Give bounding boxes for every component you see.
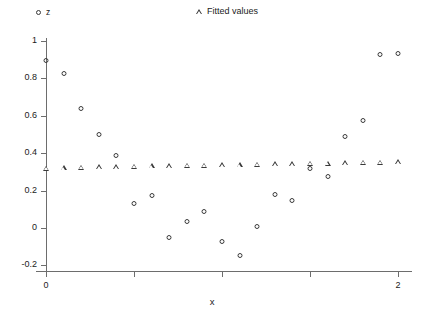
- data-point-fitted-values: [237, 152, 243, 170]
- x-tick-label: 2: [383, 281, 413, 290]
- circle-marker-icon: [396, 51, 401, 56]
- circle-marker-icon: [184, 219, 189, 224]
- data-point-fitted-values: [254, 152, 260, 170]
- triangle-marker-icon: [201, 163, 207, 168]
- data-point-fitted-values: [325, 151, 331, 169]
- circle-marker-icon: [237, 253, 242, 258]
- data-point-z: [220, 230, 225, 248]
- circle-marker-icon: [343, 134, 348, 139]
- triangle-marker-icon: [184, 163, 190, 168]
- data-point-z: [202, 200, 207, 218]
- data-point-z: [255, 215, 260, 233]
- data-point-fitted-values: [201, 153, 207, 171]
- triangle-marker-icon: [43, 166, 49, 171]
- triangle-marker-icon: [360, 160, 366, 165]
- data-point-z: [184, 210, 189, 228]
- triangle-marker-icon: [96, 164, 102, 169]
- triangle-marker-icon: [61, 165, 67, 170]
- circle-marker-icon: [272, 192, 277, 197]
- data-point-fitted-values: [377, 150, 383, 168]
- circle-marker-icon: [149, 193, 154, 198]
- x-tick-label: 0: [31, 281, 61, 290]
- data-point-z: [396, 42, 401, 60]
- circle-marker-icon: [61, 71, 66, 76]
- data-point-fitted-values: [149, 153, 155, 171]
- plot-area: 10.80.60.40.20-0.2 02: [0, 0, 424, 319]
- y-tick-label: 1: [0, 36, 37, 45]
- data-point-fitted-values: [289, 151, 295, 169]
- data-point-z: [149, 184, 154, 202]
- data-point-z: [132, 192, 137, 210]
- data-point-fitted-values: [43, 156, 49, 174]
- y-tick-label: 0.4: [0, 148, 37, 157]
- x-tick: [310, 272, 311, 277]
- triangle-marker-icon: [307, 161, 313, 166]
- data-point-z: [96, 123, 101, 141]
- data-point-z: [272, 183, 277, 201]
- data-point-fitted-values: [395, 149, 401, 167]
- x-axis-title: x: [0, 297, 424, 307]
- circle-marker-icon: [96, 132, 101, 137]
- triangle-marker-icon: [289, 161, 295, 166]
- triangle-marker-icon: [272, 161, 278, 166]
- triangle-marker-icon: [219, 162, 225, 167]
- circle-marker-icon: [325, 174, 330, 179]
- y-tick: [41, 191, 47, 192]
- triangle-marker-icon: [395, 159, 401, 164]
- data-point-fitted-values: [166, 153, 172, 171]
- data-point-z: [79, 97, 84, 115]
- data-point-fitted-values: [307, 151, 313, 169]
- circle-marker-icon: [360, 118, 365, 123]
- circle-marker-icon: [79, 106, 84, 111]
- data-point-z: [237, 244, 242, 262]
- chart-page: z Fitted values 10.80.60.40.20-0.2 02 x: [0, 0, 424, 319]
- triangle-marker-icon: [78, 165, 84, 170]
- circle-marker-icon: [167, 235, 172, 240]
- data-point-fitted-values: [219, 152, 225, 170]
- x-tick: [222, 272, 223, 277]
- circle-marker-icon: [132, 201, 137, 206]
- data-point-fitted-values: [96, 154, 102, 172]
- data-point-fitted-values: [113, 154, 119, 172]
- data-point-fitted-values: [61, 155, 67, 173]
- data-point-z: [290, 189, 295, 207]
- y-tick: [41, 78, 47, 79]
- y-tick-label: 0.6: [0, 111, 37, 120]
- triangle-marker-icon: [254, 162, 260, 167]
- triangle-marker-icon: [131, 164, 137, 169]
- y-tick-label: 0.8: [0, 73, 37, 82]
- data-point-fitted-values: [131, 154, 137, 172]
- y-tick-label: 0: [0, 223, 37, 232]
- circle-marker-icon: [290, 198, 295, 203]
- y-tick: [41, 116, 47, 117]
- y-tick: [41, 153, 47, 154]
- circle-marker-icon: [202, 209, 207, 214]
- y-tick-label: 0.2: [0, 186, 37, 195]
- data-point-fitted-values: [184, 153, 190, 171]
- data-point-z: [167, 226, 172, 244]
- data-point-z: [61, 62, 66, 80]
- data-point-z: [44, 49, 49, 67]
- data-point-fitted-values: [342, 150, 348, 168]
- triangle-marker-icon: [166, 163, 172, 168]
- x-tick: [46, 272, 47, 277]
- data-point-fitted-values: [78, 155, 84, 173]
- x-axis-line: [36, 271, 412, 272]
- circle-marker-icon: [378, 52, 383, 57]
- data-point-z: [360, 109, 365, 127]
- y-tick: [41, 41, 47, 42]
- y-tick: [41, 228, 47, 229]
- triangle-marker-icon: [149, 163, 155, 168]
- y-tick-label: -0.2: [0, 260, 37, 269]
- circle-marker-icon: [44, 58, 49, 63]
- triangle-marker-icon: [113, 164, 119, 169]
- triangle-marker-icon: [377, 160, 383, 165]
- x-tick: [398, 272, 399, 277]
- data-point-z: [343, 125, 348, 143]
- data-point-fitted-values: [272, 151, 278, 169]
- y-tick: [41, 265, 47, 266]
- triangle-marker-icon: [325, 161, 331, 166]
- circle-marker-icon: [220, 239, 225, 244]
- x-tick: [134, 272, 135, 277]
- triangle-marker-icon: [237, 162, 243, 167]
